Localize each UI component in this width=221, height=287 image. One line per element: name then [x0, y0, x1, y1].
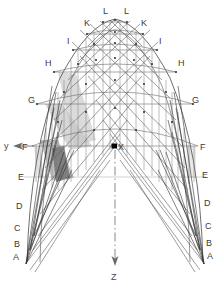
- origin-label: X: [118, 142, 124, 152]
- node: [86, 33, 88, 35]
- node: [57, 121, 59, 123]
- node: [151, 63, 153, 65]
- z-axis-label: Z: [111, 272, 117, 282]
- node: [114, 57, 116, 59]
- node: [114, 107, 116, 109]
- node: [85, 83, 87, 85]
- level-label-right-E: E: [202, 170, 208, 180]
- level-label-right-B: B: [206, 238, 212, 248]
- level-label-left-B: B: [14, 239, 20, 249]
- origin-dot: [112, 144, 118, 149]
- node: [102, 21, 104, 23]
- level-label-left-A: A: [13, 252, 19, 262]
- node: [133, 59, 135, 61]
- node: [135, 129, 137, 131]
- gridshell-elevation-svg: X Z y L K I H G F E D C B A L K I H G F …: [0, 0, 221, 287]
- level-label-right-C: C: [205, 221, 212, 231]
- level-label-right-I: I: [159, 36, 162, 46]
- node: [143, 83, 145, 85]
- node: [77, 63, 79, 65]
- level-label-right-D: D: [204, 198, 211, 208]
- node: [175, 71, 177, 73]
- node: [114, 31, 116, 33]
- level-label-left-C: C: [14, 223, 21, 233]
- node: [93, 129, 95, 131]
- node: [126, 21, 128, 23]
- node: [36, 103, 38, 105]
- node: [114, 19, 116, 21]
- node: [72, 49, 74, 51]
- node: [114, 42, 116, 44]
- level-label-right-A: A: [207, 251, 213, 261]
- level-label-right-H: H: [178, 58, 185, 68]
- node: [171, 121, 173, 123]
- level-label-right-G: G: [192, 95, 199, 105]
- y-axis-label: y: [4, 141, 9, 151]
- level-label-right-K: K: [141, 18, 147, 28]
- level-label-left-G: G: [28, 95, 35, 105]
- node: [165, 91, 167, 93]
- level-label-left-E: E: [18, 172, 24, 182]
- level-label-left-L: L: [103, 6, 108, 16]
- level-label-left-D: D: [16, 201, 23, 211]
- node: [143, 111, 145, 113]
- node: [142, 33, 144, 35]
- node: [95, 59, 97, 61]
- node: [156, 49, 158, 51]
- diagram-canvas: X Z y L K I H G F E D C B A L K I H G F …: [0, 0, 221, 287]
- level-label-right-F: F: [200, 142, 206, 152]
- level-label-left-H: H: [45, 58, 52, 68]
- level-label-right-L: L: [124, 6, 129, 16]
- node: [114, 79, 116, 81]
- node: [53, 71, 55, 73]
- level-label-left-K: K: [84, 18, 90, 28]
- node: [93, 43, 95, 45]
- node: [63, 91, 65, 93]
- node: [135, 43, 137, 45]
- level-label-left-F: F: [22, 142, 28, 152]
- level-label-left-I: I: [67, 36, 70, 46]
- node: [85, 111, 87, 113]
